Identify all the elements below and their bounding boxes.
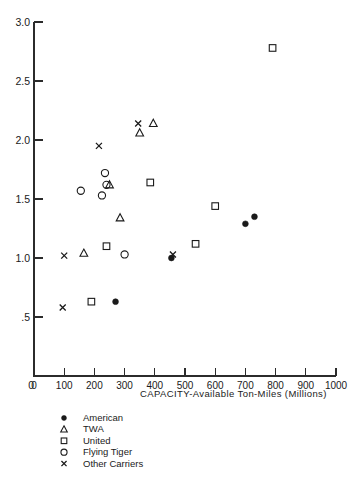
data-point [103, 243, 110, 250]
x-tick-label: 1000 [325, 380, 348, 391]
legend-label: United [83, 435, 110, 446]
data-point [243, 221, 249, 227]
legend-marker-filled-circle [62, 416, 67, 421]
series-other-carriers [60, 120, 176, 310]
y-tick-label: .5 [21, 311, 30, 323]
y-tick-label: 2.0 [15, 134, 30, 146]
legend-marker-triangle [61, 426, 68, 432]
series-twa [80, 119, 157, 256]
legend-marker-x [61, 461, 66, 466]
legend: AmericanTWAUnitedFlying TigerOther Carri… [61, 412, 144, 469]
x-tick-label: 300 [116, 380, 133, 391]
data-point [212, 203, 219, 210]
y-tick-label: 3.0 [15, 16, 30, 28]
data-point [80, 249, 88, 256]
data-point [116, 214, 124, 221]
data-point [77, 187, 84, 194]
series-united [88, 45, 276, 305]
data-point [101, 169, 108, 176]
legend-marker-open-circle [61, 449, 67, 455]
data-point [88, 298, 95, 305]
data-point [113, 299, 119, 305]
data-point [96, 143, 102, 149]
data-point [269, 45, 276, 52]
data-point [60, 305, 66, 311]
data-point [61, 253, 67, 259]
plot-canvas: 0.51.01.52.02.53.0 010020030040050060070… [0, 0, 352, 478]
data-point [135, 120, 141, 126]
data-points-group [60, 45, 276, 311]
series-american [113, 214, 258, 305]
data-point [121, 251, 128, 258]
x-tick-label: 0 [31, 380, 37, 391]
legend-label: American [83, 412, 123, 423]
legend-label: Flying Tiger [83, 446, 132, 457]
data-point [98, 192, 105, 199]
x-tick-label: 100 [56, 380, 73, 391]
data-point [149, 119, 157, 126]
axes-group [34, 22, 336, 376]
y-tick-label: 1.5 [15, 193, 30, 205]
x-axis-title: CAPACITY-Available Ton-Miles (Millions) [140, 388, 327, 399]
y-tick-label: 1.0 [15, 252, 30, 264]
axis-spines [34, 22, 336, 376]
x-tick-label: 200 [86, 380, 103, 391]
y-tick-label: 2.5 [15, 75, 30, 87]
legend-marker-open-square [61, 438, 67, 444]
scatter-chart-figure: 0.51.01.52.02.53.0 010020030040050060070… [0, 0, 352, 478]
y-tick-labels: 0.51.01.52.02.53.0 [15, 16, 34, 391]
data-point [252, 214, 258, 220]
data-point [136, 129, 144, 136]
data-point [192, 241, 199, 248]
legend-label: Other Carriers [83, 458, 143, 469]
legend-label: TWA [83, 423, 104, 434]
data-point [147, 179, 154, 186]
